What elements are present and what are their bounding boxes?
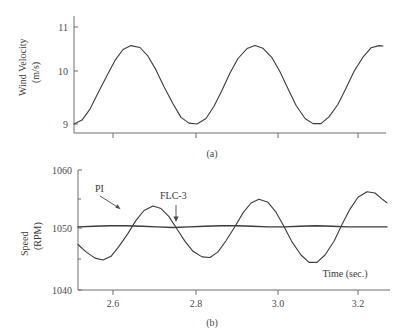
panel-b-ytick-1060: 1060 [52, 165, 72, 176]
panel-a: Wind Velocity (m/s) 9 10 11 [17, 16, 386, 138]
panel-a-ylabel-line2: (m/s) [30, 62, 42, 83]
panel-b-ytick-1050: 1050 [52, 223, 72, 234]
panel-a-ylabel-line1: Wind Velocity [17, 39, 28, 96]
pi-annotation-arrow [100, 196, 119, 208]
pi-annotation-arrowhead-icon [115, 204, 120, 209]
panel-b-xtick-label-26: 2.6 [107, 298, 120, 309]
panel-b-xtick-label-32: 3.2 [352, 298, 365, 309]
pi-annotation: PI [95, 183, 121, 209]
panel-a-ylabel: Wind Velocity (m/s) [17, 39, 42, 96]
panel-b-caption: (b) [206, 317, 218, 329]
panel-a-ytick-10: 10 [58, 66, 68, 77]
figure-container: Wind Velocity (m/s) 9 10 11 (a) [0, 0, 398, 334]
flc3-speed-curve [78, 226, 387, 228]
flc3-annotation-label: FLC-3 [160, 190, 187, 201]
flc3-annotation-arrowhead-icon [173, 217, 178, 222]
figure-svg: Wind Velocity (m/s) 9 10 11 (a) [0, 0, 398, 334]
flc3-annotation: FLC-3 [160, 190, 187, 222]
panel-b-ytick-1040: 1040 [52, 285, 72, 296]
pi-annotation-label: PI [95, 183, 104, 194]
panel-b-ylabel-line1: Speed [19, 232, 30, 256]
panel-a-caption: (a) [206, 148, 217, 160]
panel-b-ylabel: Speed (RPM) [19, 222, 44, 256]
panel-b-xtick-label-28: 2.8 [190, 298, 203, 309]
panel-b-xtick-label-30: 3.0 [272, 298, 285, 309]
panel-b: Speed (RPM) 1040 1050 1060 2.6 2.8 [19, 165, 390, 309]
panel-a-ytick-9: 9 [63, 119, 68, 130]
panel-a-ytick-11: 11 [58, 22, 68, 33]
panel-b-xlabel: Time (sec.) [322, 268, 367, 280]
wind-velocity-curve [74, 46, 383, 124]
panel-b-ylabel-line2: (RPM) [32, 222, 44, 250]
